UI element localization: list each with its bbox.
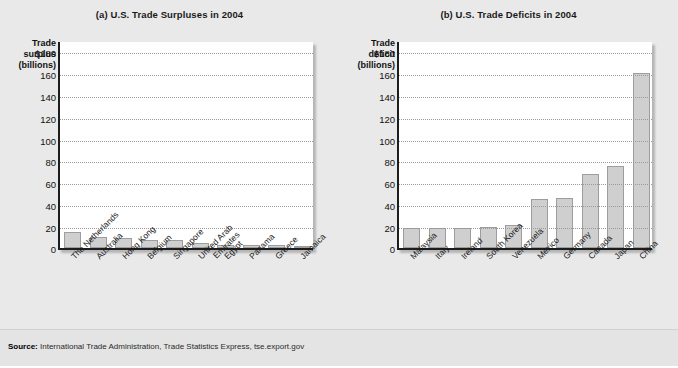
gridline: 100 <box>399 141 652 142</box>
y-axis-tick-label: 20 <box>4 223 56 234</box>
y-axis-tick-label: 120 <box>343 114 395 125</box>
figure-container: (a) U.S. Trade Surpluses in 2004 Trade s… <box>0 0 678 368</box>
source-text: International Trade Administration, Trad… <box>38 342 304 351</box>
y-axis-tick-label-zero: 0 <box>343 244 395 255</box>
gridline: 40 <box>399 206 652 207</box>
y-axis-tick-label: $180 <box>4 48 56 59</box>
chart-title-a: (a) U.S. Trade Surpluses in 2004 <box>0 9 339 20</box>
chart-panel-b: (b) U.S. Trade Deficits in 2004 Trade de… <box>339 0 678 330</box>
y-axis-tick-label: 60 <box>4 179 56 190</box>
gridline: 140 <box>399 97 652 98</box>
plot-area-a: 20406080100120140160$1800 <box>58 42 313 250</box>
bar-series-b <box>399 42 652 248</box>
bar-china <box>633 73 650 248</box>
y-axis-tick-label: 100 <box>343 136 395 147</box>
y-axis-tick-label: 140 <box>4 92 56 103</box>
x-axis-labels-b: MalaysiaItalyIrelandSouth KoreaVenezuela… <box>397 252 652 328</box>
gridline: 100 <box>60 141 313 142</box>
gridline: 160 <box>399 75 652 76</box>
source-label: Source: <box>8 342 38 351</box>
x-axis-labels-a: The NetherlandsAustraliaHong KongBelgium… <box>58 252 313 328</box>
gridline: 80 <box>60 162 313 163</box>
y-axis-tick-label: 20 <box>343 223 395 234</box>
gridline: 20 <box>399 228 652 229</box>
gridline: 140 <box>60 97 313 98</box>
y-axis-tick-label: 100 <box>4 136 56 147</box>
gridline: 160 <box>60 75 313 76</box>
chart-panel-a: (a) U.S. Trade Surpluses in 2004 Trade s… <box>0 0 339 330</box>
chart-title-b: (b) U.S. Trade Deficits in 2004 <box>339 9 678 20</box>
y-axis-tick-label: 40 <box>343 201 395 212</box>
bar-series-a <box>60 42 313 248</box>
gridline: 40 <box>60 206 313 207</box>
source-footer: Source: International Trade Administrati… <box>0 329 678 366</box>
y-axis-tick-label: 160 <box>4 70 56 81</box>
source-note: Source: International Trade Administrati… <box>8 342 304 351</box>
y-axis-tick-label: 160 <box>343 70 395 81</box>
plot-area-b: 20406080100120140160$1800 <box>397 42 652 250</box>
y-axis-tick-label: 140 <box>343 92 395 103</box>
gridline: 120 <box>399 119 652 120</box>
gridline: 60 <box>60 184 313 185</box>
gridline: $180 <box>399 53 652 54</box>
y-axis-tick-label: 40 <box>4 201 56 212</box>
y-axis-tick-label-zero: 0 <box>4 244 56 255</box>
y-axis-tick-label: 60 <box>343 179 395 190</box>
y-axis-tick-label: 80 <box>343 157 395 168</box>
gridline: 60 <box>399 184 652 185</box>
gridline: $180 <box>60 53 313 54</box>
y-axis-tick-label: 80 <box>4 157 56 168</box>
y-axis-tick-label: 120 <box>4 114 56 125</box>
gridline: 80 <box>399 162 652 163</box>
gridline: 120 <box>60 119 313 120</box>
y-axis-tick-label: $180 <box>343 48 395 59</box>
